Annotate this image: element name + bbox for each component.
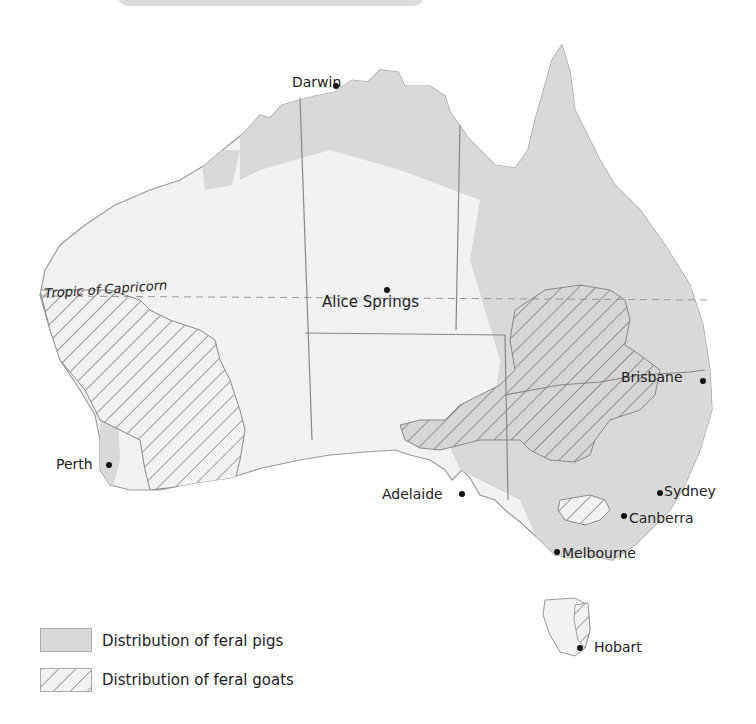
- legend-label-goats: Distribution of feral goats: [102, 671, 294, 689]
- legend-label-pigs: Distribution of feral pigs: [102, 632, 283, 650]
- city-dot: [621, 513, 627, 519]
- city-label: Hobart: [594, 639, 642, 655]
- city-label: Sydney: [664, 483, 716, 499]
- city-label: Perth: [56, 456, 93, 472]
- goats-swatch: [40, 668, 92, 692]
- australia-map: [0, 0, 756, 724]
- city-dot: [700, 378, 706, 384]
- city-dot: [106, 462, 112, 468]
- city-dot: [657, 490, 663, 496]
- city-label: Melbourne: [562, 545, 636, 561]
- city-dot: [459, 491, 465, 497]
- pigs-swatch: [40, 628, 92, 652]
- city-dot: [333, 83, 339, 89]
- city-label: Canberra: [629, 510, 694, 526]
- city-label: Alice Springs: [322, 294, 419, 310]
- city-label: Adelaide: [382, 486, 443, 502]
- city-label: Brisbane: [621, 369, 683, 385]
- city-dot: [577, 645, 583, 651]
- city-dot: [554, 549, 560, 555]
